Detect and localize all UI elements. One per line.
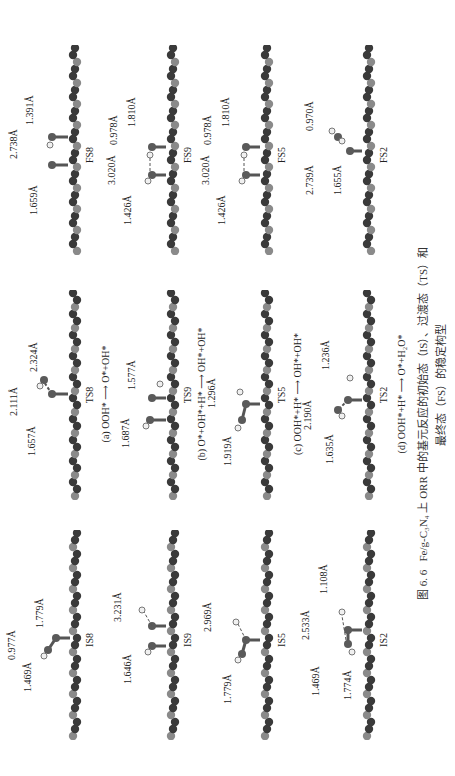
- state-label: TS8: [84, 365, 95, 425]
- distance-label: 1.577Å: [126, 360, 137, 390]
- distance-label: 1.810Å: [220, 97, 231, 127]
- distance-label: 3.231Å: [112, 592, 123, 622]
- panel-is9: 1.646Å 3.231Å IS9: [118, 530, 198, 740]
- graphene-slab-icon: [362, 530, 376, 740]
- panel-ts5: 1.919Å 1.296Å TS5: [212, 290, 292, 500]
- graphene-slab-icon: [260, 45, 274, 255]
- figure-number: 图 6. 6: [417, 570, 429, 600]
- distance-label: 3.020Å: [106, 155, 117, 185]
- caption-line-2: 最终态（FS）的稳定构型: [432, 324, 448, 446]
- figure-caption: 图 6. 6 Fe/g-C₃N₄ 上 ORR 中的基元反应的初始态（IS）、过渡…: [414, 247, 430, 600]
- distance-label: 1.426Å: [122, 195, 133, 225]
- distance-label: 1.657Å: [26, 426, 37, 456]
- distance-label: 1.426Å: [216, 195, 227, 225]
- panel-fs9: 1.426Å 3.020Å 0.978Å 1.810Å FS9: [118, 45, 198, 255]
- distance-label: 2.969Å: [202, 602, 213, 632]
- panel-fs8: 1.659Å 2.738Å 1.391Å FS8: [20, 45, 100, 255]
- distance-label: 1.391Å: [24, 95, 35, 125]
- state-label: IS5: [276, 610, 287, 670]
- distance-label: 1.779Å: [222, 674, 233, 704]
- distance-label: 1.810Å: [126, 97, 137, 127]
- panel-is5: 1.779Å 2.969Å IS5: [212, 530, 292, 740]
- graphene-slab-icon: [166, 290, 180, 500]
- state-label: IS2: [378, 610, 389, 670]
- state-label: FS5: [276, 125, 287, 185]
- distance-label: 2.739Å: [304, 165, 315, 195]
- adsorbate-ooh-h-icon: [224, 370, 262, 440]
- reaction-label-a: (a) OOH* ⟶ O*+OH*: [100, 274, 111, 514]
- adsorbate-ooh-h-icon: [328, 600, 364, 670]
- distance-label: 3.020Å: [200, 155, 211, 185]
- distance-label: 1.236Å: [320, 340, 331, 370]
- distance-label: 1.646Å: [122, 654, 133, 684]
- distance-label: 0.978Å: [202, 115, 213, 145]
- graphene-slab-icon: [166, 530, 180, 740]
- distance-label: 1.919Å: [222, 436, 233, 466]
- state-label: FS2: [378, 125, 389, 185]
- rotated-figure-page: 1.469Å 0.977Å 1.779Å IS8 1.657Å 2.111Å 2…: [0, 0, 455, 776]
- panel-fs5: 1.426Å 3.020Å 0.978Å 1.810Å FS5: [212, 45, 292, 255]
- panel-ts8: 1.657Å 2.111Å 2.324Å TS8: [20, 290, 100, 500]
- distance-label: 1.108Å: [318, 564, 329, 594]
- distance-label: 1.469Å: [22, 662, 33, 692]
- state-label: IS8: [84, 610, 95, 670]
- graphene-slab-icon: [362, 45, 376, 255]
- state-label: FS8: [84, 125, 95, 185]
- adsorbate-oh-oh-icon: [132, 115, 168, 195]
- caption-line-1: Fe/g-C₃N₄ 上 ORR 中的基元反应的初始态（IS）、过渡态（TS）和: [417, 247, 429, 562]
- distance-label: 1.659Å: [28, 185, 39, 215]
- distance-label: 1.296Å: [206, 378, 217, 408]
- panel-is2: 1.469Å 1.774Å 2.533Å 1.108Å IS2: [314, 530, 394, 740]
- graphene-slab-icon: [260, 530, 274, 740]
- adsorbate-ooh-h-icon: [226, 600, 262, 670]
- adsorbate-ooh-h-icon: [326, 360, 364, 430]
- adsorbate-o-h2o-icon: [324, 105, 364, 175]
- state-label: FS9: [182, 125, 193, 185]
- adsorbate-oh-oh-icon: [226, 115, 262, 195]
- panel-ts2: 1.635Å 2.190Å 1.236Å TS2: [314, 290, 394, 500]
- distance-label: 1.655Å: [332, 165, 343, 195]
- distance-label: 0.977Å: [6, 630, 17, 660]
- adsorbate-ooh-icon: [34, 360, 70, 420]
- distance-label: 1.687Å: [120, 418, 131, 448]
- distance-label: 0.978Å: [108, 115, 119, 145]
- reaction-label-d: (d) OOH*+H* ⟶ O*+H₂O*: [396, 274, 407, 514]
- graphene-slab-icon: [166, 45, 180, 255]
- graphene-slab-icon: [68, 290, 82, 500]
- distance-label: 1.779Å: [34, 598, 45, 628]
- distance-label: 1.469Å: [310, 666, 321, 696]
- reaction-label-c: (c) OOH*+H* ⟶ OH*+OH*: [292, 274, 303, 514]
- state-label: TS2: [378, 365, 389, 425]
- panel-is8: 1.469Å 0.977Å 1.779Å IS8: [20, 530, 100, 740]
- graphene-slab-icon: [68, 45, 82, 255]
- distance-label: 1.774Å: [342, 670, 353, 700]
- distance-label: 2.111Å: [8, 387, 19, 416]
- distance-label: 2.738Å: [8, 129, 19, 159]
- state-label: TS9: [182, 365, 193, 425]
- distance-label: 2.324Å: [28, 342, 39, 372]
- graphene-slab-icon: [362, 290, 376, 500]
- adsorbate-o-oh-icon: [36, 113, 70, 183]
- state-label: TS5: [276, 365, 287, 425]
- distance-label: 1.635Å: [324, 434, 335, 464]
- panel-ts9: 1.687Å 1.577Å TS9: [118, 290, 198, 500]
- state-label: IS9: [182, 610, 193, 670]
- distance-label: 2.190Å: [302, 400, 313, 430]
- graphene-slab-icon: [260, 290, 274, 500]
- distance-label: 0.970Å: [304, 101, 315, 131]
- adsorbate-o-oh-h-icon: [132, 592, 168, 662]
- distance-label: 2.533Å: [300, 610, 311, 640]
- panel-fs2: 1.655Å 2.739Å 0.970Å FS2: [314, 45, 394, 255]
